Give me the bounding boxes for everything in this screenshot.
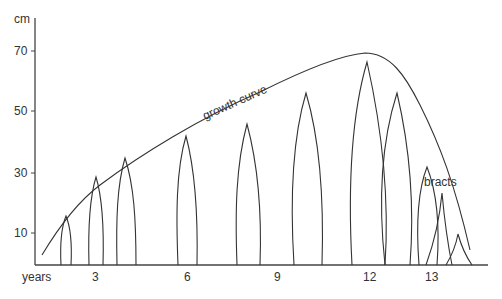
y-unit-label: cm bbox=[14, 12, 30, 26]
growth-curve-line bbox=[42, 53, 470, 255]
bracts-label: bracts bbox=[424, 175, 457, 189]
x-unit-label: years bbox=[22, 270, 51, 284]
y-tick-label-10: 10 bbox=[14, 226, 28, 240]
x-tick-label-12: 12 bbox=[363, 270, 377, 284]
leaf-5 bbox=[236, 124, 260, 265]
leaf-6 bbox=[292, 93, 322, 265]
growth-chart: cm 70 50 30 10 years 3 6 9 12 13 growth … bbox=[0, 0, 502, 299]
bract-2 bbox=[446, 234, 472, 265]
leaf-2 bbox=[89, 177, 104, 265]
leaf-1 bbox=[61, 216, 72, 265]
x-tick-label-13: 13 bbox=[425, 270, 439, 284]
x-tick-label-3: 3 bbox=[92, 270, 99, 284]
x-tick-label-6: 6 bbox=[184, 270, 191, 284]
y-tick-label-70: 70 bbox=[14, 44, 28, 58]
bract-1 bbox=[426, 193, 452, 265]
growth-curve-label: growth curve bbox=[201, 82, 270, 123]
y-tick-label-30: 30 bbox=[14, 166, 28, 180]
y-tick-label-50: 50 bbox=[14, 104, 28, 118]
leaf-7 bbox=[350, 62, 386, 265]
leaf-3 bbox=[117, 158, 136, 265]
leaf-4 bbox=[177, 136, 197, 265]
x-tick-label-9: 9 bbox=[274, 270, 281, 284]
